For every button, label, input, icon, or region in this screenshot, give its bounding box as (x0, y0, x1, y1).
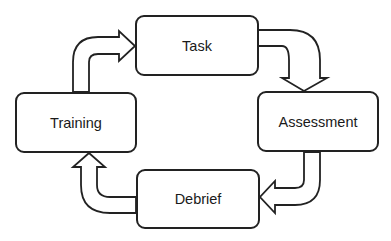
cycle-diagram: Task Assessment Debrief Training (0, 0, 391, 241)
arrow-training-to-task (73, 31, 135, 92)
node-task: Task (135, 15, 259, 76)
node-assessment: Assessment (257, 91, 379, 152)
node-debrief: Debrief (136, 169, 260, 229)
arrow-assessment-to-debrief (260, 152, 320, 213)
node-task-label: Task (182, 38, 212, 54)
node-assessment-label: Assessment (279, 114, 358, 130)
node-training: Training (15, 92, 137, 153)
node-debrief-label: Debrief (175, 191, 222, 207)
node-training-label: Training (50, 115, 102, 131)
arrow-debrief-to-training (73, 153, 136, 213)
arrow-task-to-assessment (258, 30, 327, 91)
